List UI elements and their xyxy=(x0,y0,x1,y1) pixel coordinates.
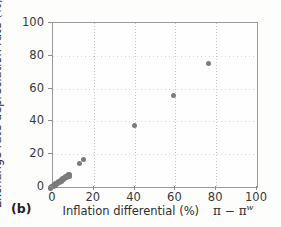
y-axis-tick-label: 60 xyxy=(10,81,44,95)
x-axis-label-symbol: π − πw xyxy=(199,204,253,218)
x-axis-tick-label: 60 xyxy=(154,190,194,204)
scatter-chart-figure: Exchange rate depreciation rate (%)ε Inf… xyxy=(0,0,281,227)
x-axis-label-text: Inflation differential (%) xyxy=(63,204,200,218)
y-axis-tick xyxy=(48,153,52,154)
gridline-horizontal xyxy=(53,56,257,57)
data-point xyxy=(132,123,137,128)
y-axis-tick-label: 40 xyxy=(10,113,44,127)
x-axis-tick-label: 80 xyxy=(195,190,235,204)
panel-label: (b) xyxy=(11,201,31,216)
x-axis-tick-label: 100 xyxy=(236,190,276,204)
y-axis-tick xyxy=(48,186,52,187)
gridline-horizontal xyxy=(53,154,257,155)
data-point xyxy=(81,157,86,162)
x-axis-symbol-superscript: w xyxy=(247,203,254,212)
y-axis-label-text: Exchange rate depreciation rate (%) xyxy=(0,0,4,208)
x-axis-tick-label: 20 xyxy=(73,190,113,204)
gridline-horizontal xyxy=(53,121,257,122)
gridline-vertical xyxy=(216,23,217,187)
gridline-vertical xyxy=(94,23,95,187)
y-axis-tick-label: 0 xyxy=(10,179,44,193)
data-point xyxy=(67,172,72,177)
gridline-horizontal xyxy=(53,89,257,90)
gridline-vertical xyxy=(135,23,136,187)
data-point xyxy=(206,61,211,66)
x-axis-label: Inflation differential (%)π − πw xyxy=(52,203,264,218)
y-axis-tick-label: 100 xyxy=(10,15,44,29)
x-axis-tick-label: 40 xyxy=(114,190,154,204)
x-axis-symbol-base: π − π xyxy=(213,204,246,218)
gridline-vertical xyxy=(175,23,176,187)
y-axis-tick xyxy=(48,88,52,89)
data-point xyxy=(171,93,176,98)
y-axis-label: Exchange rate depreciation rate (%)ε xyxy=(0,8,4,208)
y-axis-tick-label: 80 xyxy=(10,48,44,62)
y-axis-tick xyxy=(48,55,52,56)
y-axis-tick xyxy=(48,120,52,121)
y-axis-tick xyxy=(48,22,52,23)
y-axis-tick-label: 20 xyxy=(10,146,44,160)
plot-area xyxy=(52,22,258,188)
